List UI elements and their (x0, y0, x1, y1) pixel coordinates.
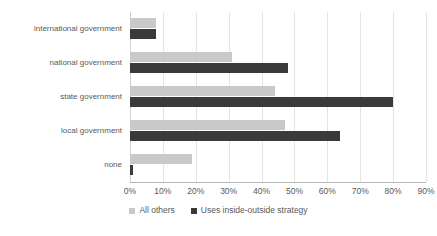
bar (130, 120, 285, 130)
bar (130, 97, 393, 107)
x-axis-line (130, 182, 426, 183)
bar (130, 18, 156, 28)
bar (130, 29, 156, 39)
bar (130, 86, 275, 96)
chart-legend: All othersUses inside-outside strategy (0, 205, 437, 216)
horizontal-bar-chart: international governmentnational governm… (0, 0, 437, 236)
legend-swatch-icon (129, 208, 135, 214)
category-label: none (0, 160, 122, 170)
bar-group (130, 12, 426, 46)
legend-label: All others (139, 205, 174, 216)
legend-item[interactable]: Uses inside-outside strategy (191, 205, 308, 216)
bar (130, 63, 288, 73)
bar (130, 131, 340, 141)
x-tick-label: 90% (406, 186, 437, 197)
category-label: local government (0, 126, 122, 136)
gridline-90% (426, 12, 427, 182)
plot-area (130, 12, 426, 182)
bar-group (130, 46, 426, 80)
category-label: state government (0, 92, 122, 102)
bar (130, 52, 232, 62)
bar (130, 154, 192, 164)
bar (130, 165, 133, 175)
bar-group (130, 80, 426, 114)
bar-group (130, 148, 426, 182)
category-label: international government (0, 24, 122, 34)
bar-group (130, 114, 426, 148)
legend-label: Uses inside-outside strategy (201, 205, 308, 216)
category-label: national government (0, 58, 122, 68)
legend-item[interactable]: All others (129, 205, 174, 216)
legend-swatch-icon (191, 208, 197, 214)
